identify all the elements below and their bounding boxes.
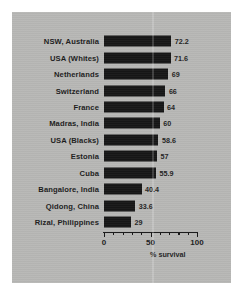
category-label: USA (Blacks)	[50, 135, 99, 144]
x-axis-tick-label: 100	[190, 238, 203, 247]
category-label: NSW, Australia	[44, 37, 99, 46]
bar-row: Bangalore, India40.4	[0, 181, 231, 197]
bar-value-label: 55.9	[159, 168, 173, 177]
chart-figure: NSW, Australia72.2USA (Whites)71.6Nether…	[0, 0, 231, 283]
category-label: Cuba	[80, 168, 99, 177]
bar	[104, 151, 157, 162]
bar-row: Switzerland66	[0, 82, 231, 98]
bar	[104, 118, 160, 129]
bar-row: Rizal, Philippines29	[0, 214, 231, 230]
bar	[104, 85, 165, 96]
bar	[104, 101, 164, 112]
bar-value-label: 33.6	[139, 201, 153, 210]
x-axis-minor-tick	[169, 232, 170, 235]
bar-value-label: 64	[167, 102, 175, 111]
bar-row: USA (Whites)71.6	[0, 49, 231, 65]
bar-value-label: 40.4	[145, 185, 159, 194]
bar	[104, 167, 156, 178]
bar-value-label: 66	[169, 86, 177, 95]
bar-value-label: 60	[163, 119, 171, 128]
category-label: Estonia	[71, 152, 99, 161]
bar-value-label: 71.6	[174, 53, 188, 62]
bar-row: Cuba55.9	[0, 165, 231, 181]
x-axis-major-tick	[104, 232, 105, 237]
bar-row: Madras, India60	[0, 115, 231, 131]
bar-value-label: 29	[134, 218, 142, 227]
category-label: Qidong, China	[46, 201, 99, 210]
bar-value-label: 72.2	[175, 37, 189, 46]
bar-row: USA (Blacks)58.6	[0, 132, 231, 148]
category-label: Rizal, Philippines	[35, 218, 99, 227]
bar-row: Qidong, China33.6	[0, 198, 231, 214]
bar-row: Estonia57	[0, 148, 231, 164]
x-axis-major-tick	[151, 232, 152, 237]
category-label: France	[73, 102, 99, 111]
category-label: Bangalore, India	[38, 185, 99, 194]
bar	[104, 52, 171, 63]
bar	[104, 69, 168, 80]
bar-row: NSW, Australia72.2	[0, 33, 231, 49]
x-axis-tick-label: 0	[102, 238, 106, 247]
x-axis-minor-tick	[160, 232, 161, 235]
x-axis-minor-tick	[132, 232, 133, 235]
x-axis-minor-tick	[123, 232, 124, 235]
bar-value-label: 69	[172, 70, 180, 79]
x-axis-minor-tick	[178, 232, 179, 235]
x-axis-minor-tick	[188, 232, 189, 235]
category-label: Switzerland	[56, 86, 99, 95]
bar	[104, 217, 131, 228]
x-axis-tick-label: 50	[146, 238, 155, 247]
x-axis-minor-tick	[141, 232, 142, 235]
bar	[104, 200, 135, 211]
x-axis-title: % survival	[150, 250, 186, 259]
x-axis-minor-tick	[113, 232, 114, 235]
bar	[104, 184, 142, 195]
x-axis-major-tick	[197, 232, 198, 237]
category-label: Netherlands	[54, 70, 99, 79]
bar-row: Netherlands69	[0, 66, 231, 82]
category-label: Madras, India	[49, 119, 99, 128]
bar-value-label: 57	[161, 152, 169, 161]
bar	[104, 36, 171, 47]
category-label: USA (Whites)	[50, 53, 99, 62]
bar	[104, 134, 158, 145]
bar-value-label: 58.6	[162, 135, 176, 144]
bar-row: France64	[0, 99, 231, 115]
